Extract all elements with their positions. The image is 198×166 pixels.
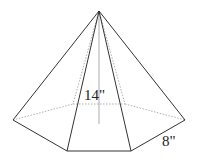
pyramid-diagram: 14" 8" [0,0,198,166]
base-edge-label: 8" [162,134,176,149]
visible-base-edges [13,120,185,151]
hidden-base-edge-left [13,104,73,120]
height-label: 14" [84,88,105,103]
hidden-base-edge-right [125,104,185,120]
